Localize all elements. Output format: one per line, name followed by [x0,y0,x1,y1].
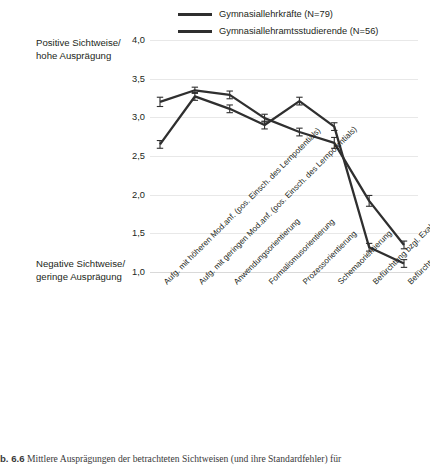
figure-caption-text: Mittlere Ausprägungen der betrachteten S… [27,453,341,464]
legend-label-teachers: Gymnasiallehrkräfte (N=79) [219,9,333,20]
y-tick-label: 3,5 [132,74,145,84]
legend-label-students: Gymnasiallehramtsstudierende (N=56) [219,26,378,37]
y-tick-label: 3,0 [132,112,145,122]
x-axis-labels: Aufg. mit höheren Mod.anf. (pos. Einsch.… [0,276,430,436]
legend-item-1: Gymnasiallehramtsstudierende (N=56) [178,23,428,40]
legend-item-0: Gymnasiallehrkräfte (N=79) [178,6,428,23]
axis-note-positive: Positive Sichtweise/ hohe Ausprägung [36,36,166,62]
y-tick-label: 4,0 [132,35,145,45]
figure-caption: b. 6.6 Mittlere Ausprägungen der betrach… [0,452,430,467]
y-tick-label: 1,5 [132,228,145,238]
figure-container: Gymnasiallehrkräfte (N=79) Gymnasiallehr… [0,0,430,467]
chart-legend: Gymnasiallehrkräfte (N=79) Gymnasiallehr… [178,6,428,40]
legend-line-swatch-teachers [178,13,212,16]
y-tick-label: 2,0 [132,190,145,200]
axis-note-negative-line1: Negative Sichtweise/ [36,257,166,270]
axis-note-positive-line2: hohe Ausprägung [36,49,166,62]
y-tick-label: 2,5 [132,151,145,161]
axis-note-positive-line1: Positive Sichtweise/ [36,36,166,49]
legend-line-swatch-students [178,30,212,33]
figure-caption-label: b. 6.6 [0,453,25,464]
